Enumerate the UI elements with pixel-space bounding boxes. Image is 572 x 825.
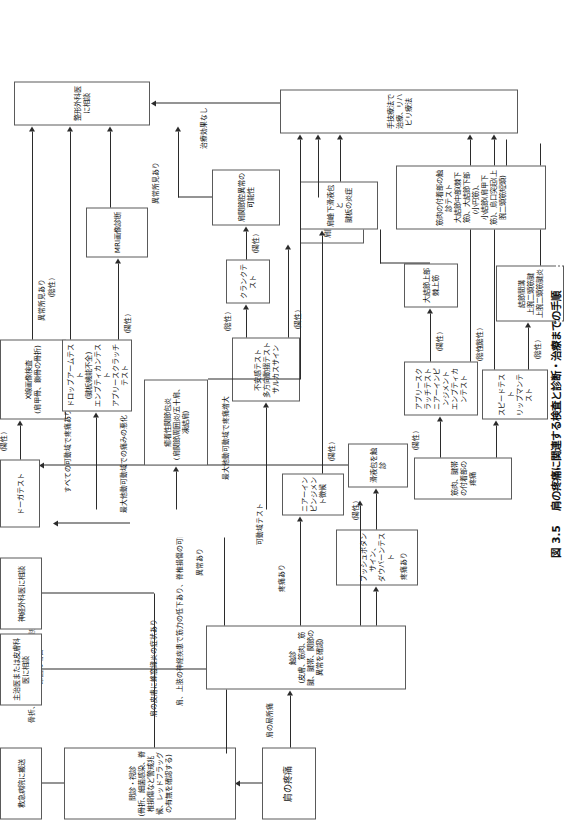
edge-label-negative-1: (陰性) xyxy=(224,303,232,339)
figure-caption: 図 3.5 肩の疼痛に関連する検査と診断・治療までの手順 xyxy=(548,290,563,557)
arrow-right xyxy=(337,134,343,139)
edge-pushbutton-bursa xyxy=(376,493,377,529)
edge-label-negative-2: (陰性) xyxy=(48,269,56,305)
arrow-right xyxy=(493,420,499,425)
edge-droparm-neg-ortho xyxy=(70,131,71,339)
edge-label-positive-3: (陽性) xyxy=(0,423,8,459)
node-orthopedic-surgeon[interactable]: 整形外科医に相談 xyxy=(14,81,150,125)
node-emergency-hospital[interactable]: 救急病院に搬送 xyxy=(0,747,42,819)
node-rom-test-stem xyxy=(130,509,226,537)
arrow-right xyxy=(115,258,121,263)
edge-mt-ortho xyxy=(156,102,280,103)
edge-attachpain-apley xyxy=(440,421,441,457)
node-start[interactable]: 肩の疼痛 xyxy=(262,747,316,819)
edge-supraspinatus-sub-h xyxy=(380,229,381,263)
node-mri-diagnosis[interactable]: MRI画像診断 xyxy=(86,207,148,257)
node-adhesive-capsulitis[interactable]: 癒着性関節包炎 (肩関節周囲炎/五十肩、凍結肩) xyxy=(144,379,208,465)
node-primary-or-dermatologist[interactable]: 主治医または皮膚科医に相談 xyxy=(0,633,42,705)
node-crank-test[interactable]: クランクテスト xyxy=(226,259,270,303)
arrow-right xyxy=(437,416,443,421)
arrow-right xyxy=(107,126,113,131)
node-bursa-palpation[interactable]: 滑液包を触診 xyxy=(348,443,408,487)
edge-adhesive-mt-h xyxy=(300,139,301,379)
figure-caption-text: 肩の疼痛に関連する検査と診断・治療までの手順 xyxy=(550,290,562,510)
arrow-right xyxy=(427,308,433,313)
arrow-up xyxy=(53,520,58,526)
node-attachment-palpation[interactable]: 筋肉の付着部の触診テスト 大結節中部(棘下筋)、大結節下部(小円筋)、 小結節(… xyxy=(396,165,546,229)
edge-label-positive-5: (陽性) xyxy=(294,301,302,337)
arrow-right xyxy=(315,134,321,139)
edge-palpation-neer xyxy=(300,521,301,625)
figure-caption-number: 図 3.5 xyxy=(550,525,562,557)
arrow-right xyxy=(175,126,181,131)
node-muscle-tendon-attachment-pain[interactable]: 筋肉、腱帯の付着部の疼痛 xyxy=(414,457,512,499)
edge-label-positive-8: (陽性) xyxy=(436,323,444,359)
edge-history-neuro-v xyxy=(24,592,154,593)
node-apley-neer-emptycan[interactable]: アプリースクラッチテスト ニアーインピンジメント エンプティカンテスト xyxy=(404,361,478,415)
edge-instability-mt xyxy=(318,139,319,197)
node-manual-therapy-rehab[interactable]: 手技療法で治療、リハビリ療法 xyxy=(280,89,518,133)
arrow-right xyxy=(29,126,35,131)
edge-label-positive-7: (陽性) xyxy=(328,433,336,469)
edge-label-negative-5: (陰性) xyxy=(534,331,542,367)
arrow-right xyxy=(491,134,497,139)
arrow-right xyxy=(93,412,99,417)
edge-label-positive-4: (陽性) xyxy=(252,225,260,261)
edge-start-to-history xyxy=(240,782,262,783)
node-palpation[interactable]: 触診 (皮膚、筋肉、筋腱、腱帯、関節の異常を確認) xyxy=(206,625,406,689)
edge-subacromial-mt xyxy=(340,139,341,181)
edge-neer-subacromial xyxy=(322,235,323,473)
edge-history-palpation xyxy=(290,695,291,747)
arrow-right xyxy=(67,126,73,131)
node-labrum-abnormality[interactable]: 肩関節腔異常の可能性 xyxy=(212,169,280,225)
edge-mri-ortho xyxy=(110,131,111,207)
edge-xray-ortho xyxy=(32,131,33,339)
arrow-up xyxy=(151,100,156,106)
arrow-right xyxy=(467,134,473,139)
edge-palpation-attachpain xyxy=(360,505,361,625)
edge-label-local-pain: 肩の局所痛 xyxy=(266,695,274,745)
node-neer-impingement[interactable]: ニアーインピンジメント徴候 xyxy=(282,473,344,515)
edge-label-negative-4: (陰性) xyxy=(476,333,484,369)
arrow-right xyxy=(525,322,531,327)
edge-label-pain-max-passive: 最大他動可動域での痛みの悪化 xyxy=(120,401,128,525)
edge-label-no-effect: 治療効果なし xyxy=(200,105,208,149)
edge-history-derm-v2 xyxy=(24,668,226,669)
arrow-right xyxy=(357,500,363,505)
edge-palpation-abnormal-h xyxy=(224,523,225,625)
arrow-right xyxy=(373,488,379,493)
arrow-right xyxy=(287,690,293,695)
edge-label-abnormal-xray: 異常所見あり xyxy=(38,263,46,335)
node-dawbarn-test[interactable]: ドーガテスト xyxy=(0,459,40,527)
arrow-right xyxy=(285,244,291,249)
edge-label-pain-increase-max: 最大他動可動域で疼痛増大 xyxy=(222,375,230,499)
node-history-inspection[interactable]: 問診・視診 (骨折、細菌感染、脊椎損傷など警戒兆候、レッドフラッグの有無を確認す… xyxy=(64,747,236,819)
node-subacromial-bursitis[interactable]: 肩峰下滑液包と 腱板の炎症 xyxy=(300,181,378,229)
edge-dawbarn-xray xyxy=(20,425,21,459)
edge-label-abnormal: 異常あり xyxy=(196,533,204,589)
node-neurosurgeon[interactable]: 神経外科医に相談 xyxy=(0,557,42,629)
edge-apley-supraspinatus xyxy=(430,313,431,361)
edge-crank-labrum xyxy=(246,231,247,259)
edge-instability-crank xyxy=(246,309,247,337)
edge-label-pain-present-1: 疼痛あり xyxy=(278,553,286,601)
node-supraspinatus[interactable]: 大結節上部 棘上筋 xyxy=(404,263,458,307)
edge-supraspinatus-sub-v xyxy=(380,262,430,263)
arrow-right xyxy=(263,402,269,407)
node-xray-imaging[interactable]: X線画像検査 (肩甲骨、鎖骨の骨折) xyxy=(0,339,66,419)
flowchart-canvas: 肩の疼痛 問診・視診 (骨折、細菌感染、脊椎損傷など警戒兆候、レッドフラッグの有… xyxy=(0,0,572,825)
node-speed-lippman-test[interactable]: スピードテスト リップマンテスト xyxy=(482,369,548,419)
edge-rom-droparm xyxy=(96,417,97,509)
edge-speed-bicipital xyxy=(528,327,529,369)
edge-label-pain-all-rom: すべての可動域で疼痛あり xyxy=(64,395,72,505)
node-droparm-empty-can-apley[interactable]: ドロップアームテスト (腱板機能不全) エンプティカンテスト アプリースクラッチ… xyxy=(62,339,132,411)
edge-attachpain-speed xyxy=(496,425,497,457)
edge-label-positive-2: (陽性) xyxy=(412,421,420,459)
arrow-right xyxy=(297,516,303,521)
edge-palpation-pushbutton xyxy=(376,591,377,625)
arrow-right xyxy=(319,230,325,235)
node-instability-tests[interactable]: 不安感テスト 多方向動揺テスト サルカスサイン xyxy=(232,337,300,401)
edge-labrum-ortho-h xyxy=(178,131,179,197)
edge-adhesive-mt-drop xyxy=(208,378,300,379)
edge-instability-diag xyxy=(288,249,289,337)
